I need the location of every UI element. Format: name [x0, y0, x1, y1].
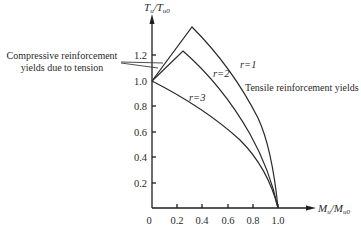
- annotation-compressive-line2: yields due to tension: [21, 62, 104, 73]
- annotation-tensile: Tensile reinforcement yields: [245, 82, 359, 93]
- leader-line-r1: [121, 62, 163, 63]
- y-axis-arrow-icon: [150, 14, 155, 24]
- x-tick-1.0: 1.0: [271, 215, 284, 226]
- interaction-diagram: 0.2 0.4 0.6 0.8 1.0 1.2 0 0.2 0.4 0.6 0.…: [0, 0, 361, 232]
- label-r2: r=2: [213, 68, 230, 79]
- y-tick-1.2: 1.2: [134, 50, 147, 61]
- x-tick-0.6: 0.6: [221, 215, 234, 226]
- curve-r3: [152, 81, 278, 208]
- y-tick-0.6: 0.6: [134, 127, 147, 138]
- label-r1: r=1: [240, 59, 256, 70]
- y-tick-labels: 0.2 0.4 0.6 0.8 1.0 1.2: [134, 50, 148, 189]
- curve-r1: [152, 27, 278, 208]
- x-tick-0.4: 0.4: [195, 215, 209, 226]
- label-r3: r=3: [189, 92, 205, 103]
- y-tick-0.2: 0.2: [134, 178, 147, 189]
- x-tick-0.2: 0.2: [170, 215, 183, 226]
- y-tick-0.4: 0.4: [134, 152, 148, 163]
- x-tick-0: 0: [146, 215, 151, 226]
- x-axis-label: Mu/Mu0: [317, 202, 350, 216]
- y-tick-0.8: 0.8: [134, 101, 147, 112]
- annotation-compressive-line1: Compressive reinforcement: [7, 50, 118, 61]
- x-tick-0.8: 0.8: [246, 215, 259, 226]
- y-axis-label: Tu/Tu0: [144, 1, 170, 15]
- y-tick-1.0: 1.0: [134, 76, 147, 87]
- x-tick-labels: 0 0.2 0.4 0.6 0.8 1.0: [146, 215, 284, 226]
- x-axis-arrow-icon: [306, 206, 316, 211]
